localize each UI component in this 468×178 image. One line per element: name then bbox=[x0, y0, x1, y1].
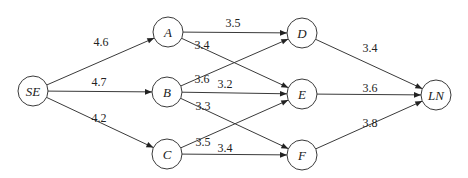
node-se: SE bbox=[18, 76, 48, 106]
edge-weight-b-e: 3.2 bbox=[218, 77, 233, 91]
edge-weight-se-b: 4.7 bbox=[92, 75, 107, 89]
edge-c-f bbox=[182, 154, 287, 155]
network-diagram: 4.64.74.23.53.43.63.23.33.53.43.43.63.8 … bbox=[0, 0, 468, 178]
node-e: E bbox=[287, 79, 317, 109]
node-label: LN bbox=[427, 88, 445, 103]
node-label: C bbox=[163, 147, 172, 162]
edge-weight-d-ln: 3.4 bbox=[363, 41, 378, 55]
node-d: D bbox=[287, 18, 317, 48]
edge-weight-se-c: 4.2 bbox=[92, 111, 107, 125]
edge-a-d bbox=[183, 32, 287, 33]
node-label: D bbox=[296, 26, 307, 41]
node-b: B bbox=[152, 77, 182, 107]
node-label: SE bbox=[26, 84, 41, 99]
edge-weight-b-d: 3.6 bbox=[195, 72, 210, 86]
node-label: B bbox=[163, 85, 171, 100]
node-label: F bbox=[297, 148, 307, 163]
edge-weight-c-f: 3.4 bbox=[218, 141, 233, 155]
edge-se-b bbox=[48, 91, 152, 92]
edge-weight-f-ln: 3.8 bbox=[363, 116, 378, 130]
edge-weight-c-e: 3.5 bbox=[196, 135, 211, 149]
node-c: C bbox=[152, 139, 182, 169]
edge-weight-e-ln: 3.6 bbox=[363, 81, 378, 95]
node-f: F bbox=[287, 140, 317, 170]
node-a: A bbox=[153, 17, 183, 47]
node-label: E bbox=[297, 87, 306, 102]
edge-b-e bbox=[182, 92, 287, 94]
edge-weight-se-a: 4.6 bbox=[94, 35, 109, 49]
weights-layer: 4.64.74.23.53.43.63.23.33.53.43.43.63.8 bbox=[92, 16, 378, 155]
edge-weight-b-f: 3.3 bbox=[196, 99, 211, 113]
diagram-svg: 4.64.74.23.53.43.63.23.33.53.43.43.63.8 … bbox=[0, 0, 468, 178]
node-label: A bbox=[163, 25, 172, 40]
edge-weight-a-e: 3.4 bbox=[195, 38, 210, 52]
node-ln: LN bbox=[421, 80, 451, 110]
edge-weight-a-d: 3.5 bbox=[226, 16, 241, 30]
